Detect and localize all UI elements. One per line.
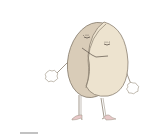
left-glove	[45, 70, 58, 82]
pill-character-illustration: Cartoon illustration of a split round pi…	[0, 0, 152, 136]
left-shoe	[72, 115, 82, 120]
legs	[72, 95, 116, 120]
right-glove	[127, 82, 139, 94]
